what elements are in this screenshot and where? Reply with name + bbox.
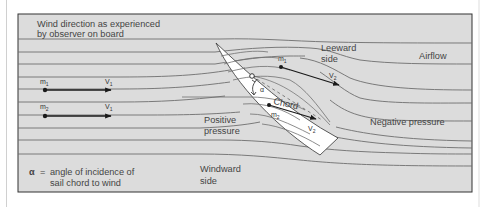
leeward-label-1: Leeward xyxy=(321,43,356,53)
legend-line-2: sail chord to wind xyxy=(50,178,121,188)
alpha-label: α xyxy=(260,86,264,93)
sail-airflow-diagram: Wind direction as experienced by observe… xyxy=(0,0,481,207)
title-line-1: Wind direction as experienced xyxy=(37,19,160,29)
leeward-label-2: side xyxy=(321,54,338,64)
title-line-2: by observer on board xyxy=(37,29,124,39)
windward-label-2: side xyxy=(200,176,217,186)
positive-pressure-label-1: Positive xyxy=(204,115,236,125)
windward-label-1: Windward xyxy=(200,164,241,174)
legend-line-1: angle of incidence of xyxy=(50,167,135,177)
positive-pressure-label-2: pressure xyxy=(204,126,240,136)
pivot-point-icon xyxy=(250,74,255,79)
legend-alpha-symbol: α xyxy=(29,167,35,177)
legend-equals: = xyxy=(40,167,45,177)
airflow-label: Airflow xyxy=(419,51,447,61)
negative-pressure-label: Negative pressure xyxy=(370,117,445,127)
